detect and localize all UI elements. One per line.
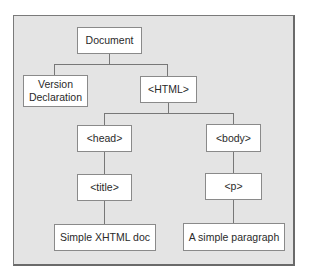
edge-to-version	[54, 64, 55, 75]
node-body: <body>	[206, 124, 261, 152]
node-html-label: <HTML>	[148, 83, 189, 96]
node-document: Document	[77, 27, 142, 54]
edge-document-bar	[54, 64, 168, 65]
node-version-declaration: Version Declaration	[23, 75, 88, 107]
node-document-label: Document	[86, 34, 134, 47]
edge-head-title	[104, 152, 105, 174]
edge-document-down	[109, 54, 110, 64]
node-version-label-line2: Declaration	[29, 91, 82, 104]
edge-html-down	[168, 103, 169, 113]
node-p: <p>	[205, 173, 262, 200]
edge-to-head	[104, 113, 105, 125]
edge-to-body	[233, 113, 234, 124]
edge-to-html	[167, 64, 168, 76]
node-head: <head>	[77, 125, 132, 152]
node-title-label: <title>	[90, 181, 119, 194]
node-html: <HTML>	[140, 76, 197, 103]
node-p-label: <p>	[224, 180, 242, 193]
node-title-text-label: Simple XHTML doc	[60, 231, 150, 244]
edge-body-p	[233, 152, 234, 173]
node-p-text: A simple paragraph	[183, 223, 285, 251]
edge-title-text	[104, 201, 105, 224]
edge-p-text	[233, 200, 234, 223]
node-p-text-label: A simple paragraph	[189, 231, 279, 244]
edge-html-bar	[104, 113, 234, 114]
node-version-label-line1: Version	[38, 78, 73, 91]
node-title: <title>	[77, 174, 132, 201]
node-body-label: <body>	[216, 132, 251, 145]
node-title-text: Simple XHTML doc	[54, 224, 156, 251]
node-head-label: <head>	[87, 132, 123, 145]
